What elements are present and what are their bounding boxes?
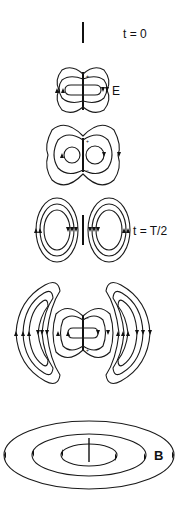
arrow-icon <box>56 331 60 336</box>
arrow-icon <box>27 331 31 336</box>
field-loop-right-2 <box>92 204 126 256</box>
plus-marker: + <box>86 73 89 79</box>
dipole-radiation-diagram: + E + − t = T/2 <box>0 0 186 516</box>
arrow-icon <box>141 330 145 335</box>
frame-t-half: t = T/2 <box>34 198 167 262</box>
field-loop-left-2 <box>40 204 74 256</box>
arrow-icon <box>14 331 18 336</box>
field-loop-right-inner <box>86 146 104 164</box>
label-t0: t = 0 <box>123 27 147 41</box>
field-loop-right-1 <box>96 210 122 250</box>
arrow-icon <box>60 153 64 158</box>
arrow-icon <box>126 228 130 233</box>
arrow-icon <box>66 227 70 232</box>
frame-b-field: B <box>4 421 174 489</box>
field-loop-left-1 <box>44 210 70 250</box>
frame-e-field-2: + − <box>47 125 121 185</box>
arrow-icon <box>105 87 109 92</box>
arrow-icon <box>101 87 105 92</box>
arrow-icon <box>92 227 96 232</box>
frame-e-field-3: − + <box>14 283 152 384</box>
arrow-icon <box>122 228 126 233</box>
label-e: E <box>112 84 120 98</box>
arrow-icon <box>96 227 100 232</box>
arrow-icon <box>106 330 110 335</box>
arrow-icon <box>117 152 121 157</box>
plus-marker: + <box>86 347 89 353</box>
arrow-icon <box>126 331 130 336</box>
arrow-icon <box>40 330 44 335</box>
arrow-icon <box>66 331 70 336</box>
arrow-icon <box>148 330 152 335</box>
arrow-icon <box>96 330 100 335</box>
arrow-icon <box>74 227 78 232</box>
arrow-icon <box>70 227 74 232</box>
frame-e-field-1: + E <box>55 68 120 113</box>
arrow-icon <box>34 228 38 233</box>
minus-marker: − <box>86 167 89 173</box>
plus-marker: + <box>86 138 89 144</box>
label-t-half: t = T/2 <box>133 224 167 238</box>
minus-marker: − <box>86 315 89 321</box>
arrow-icon <box>102 152 106 157</box>
arrow-icon <box>61 88 65 93</box>
arrow-icon <box>21 331 25 336</box>
arrow-icon <box>88 227 92 232</box>
label-b: B <box>154 448 163 463</box>
arrow-icon <box>45 330 49 335</box>
field-loop-left-inner <box>64 147 80 163</box>
arrow-icon <box>135 330 139 335</box>
arrow-icon <box>36 330 40 335</box>
arrow-icon <box>38 228 42 233</box>
